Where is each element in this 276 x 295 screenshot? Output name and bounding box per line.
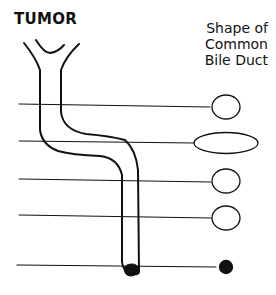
level-line-3: [19, 179, 211, 182]
tumor-mass: [124, 264, 139, 276]
level-line-1: [19, 104, 210, 107]
cross-section-round-3: [212, 206, 240, 230]
cross-section-round-1: [212, 95, 240, 119]
cross-section-occluded-dot: [220, 261, 233, 274]
level-line-5: [17, 265, 216, 267]
cross-section-flattened-oval: [194, 133, 258, 154]
cross-sections: [194, 95, 258, 274]
bile-duct-outline: [24, 40, 139, 274]
cross-section-round-2: [212, 169, 240, 193]
level-lines: [17, 104, 216, 267]
bile-duct-diagram: [0, 0, 276, 295]
level-line-4: [19, 215, 211, 218]
